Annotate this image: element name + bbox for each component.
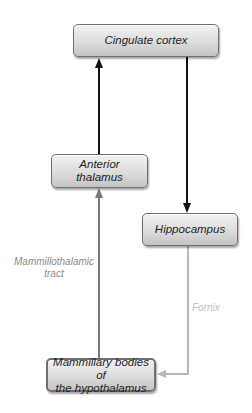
- node-label-line2: thalamus: [76, 171, 123, 184]
- node-label-line1: Mammillary bodies of: [48, 356, 154, 382]
- node-mammillary-bodies: Mammillary bodies of the hypothalamus: [46, 358, 156, 392]
- edge-label-mammillothalamic: Mammillothalamic tract: [10, 256, 98, 280]
- edge-cingulate-to-hippocampus: [183, 57, 191, 213]
- edge-label-line2: tract: [10, 268, 98, 280]
- node-label: Cingulate cortex: [104, 34, 187, 47]
- edge-anterior-to-cingulate: [95, 58, 103, 154]
- edge-label-text: Fornix: [192, 302, 220, 313]
- connector-layer: [0, 0, 252, 413]
- node-label-line2: the hypothalamus: [48, 382, 154, 395]
- edge-label-line1: Mammillothalamic: [10, 256, 98, 268]
- node-anterior-thalamus: Anterior thalamus: [51, 154, 148, 188]
- node-cingulate-cortex: Cingulate cortex: [73, 24, 219, 57]
- edge-fornix: [157, 246, 188, 378]
- node-label: Hippocampus: [155, 223, 225, 236]
- node-label-line1: Anterior: [76, 158, 123, 171]
- edge-label-fornix: Fornix: [192, 302, 220, 314]
- node-hippocampus: Hippocampus: [142, 213, 238, 246]
